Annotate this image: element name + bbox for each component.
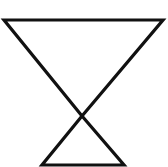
lower-triangle: [42, 116, 124, 165]
upper-inverted-triangle: [4, 20, 163, 116]
triangle-group: [4, 20, 163, 165]
hourglass-triangles-diagram: [0, 0, 168, 167]
